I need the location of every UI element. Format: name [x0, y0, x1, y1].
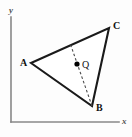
point-q-group — [74, 61, 79, 66]
y-axis-label: y — [9, 6, 13, 15]
x-axis-label: x — [122, 117, 127, 126]
triangle-group — [31, 28, 109, 106]
geometry-figure: A B C Q y x — [0, 0, 132, 137]
triangle-interior-fill — [31, 28, 109, 106]
point-label-q: Q — [82, 60, 89, 70]
vertex-label-c: C — [113, 21, 120, 31]
vertex-label-a: A — [20, 58, 27, 68]
vertex-label-b: B — [96, 103, 103, 113]
point-q-dot — [74, 61, 79, 66]
